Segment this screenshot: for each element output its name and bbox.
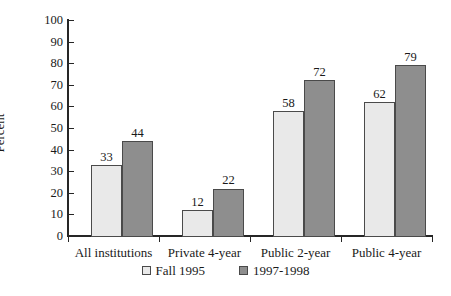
bar-private-4-year-1997-1998 — [213, 189, 244, 238]
legend-item-1997-1998: 1997-1998 — [239, 264, 309, 277]
y-axis-tick-label: 40 — [23, 144, 63, 156]
y-axis-tick-label: 70 — [23, 79, 63, 91]
y-axis-tick — [69, 236, 74, 237]
bar-value-label: 22 — [222, 174, 235, 187]
y-axis-tick-label: 20 — [23, 187, 63, 199]
bar-value-label: 79 — [404, 51, 417, 64]
bar-value-label: 12 — [191, 196, 204, 209]
y-axis-tick — [69, 63, 74, 64]
y-axis-tick — [69, 106, 74, 107]
legend-swatch-icon — [239, 266, 248, 275]
bar-value-label: 72 — [313, 66, 326, 79]
x-axis-tick — [159, 237, 160, 242]
y-axis-tick-label: 90 — [23, 36, 63, 48]
bar-all-institutions-1997-1998 — [122, 141, 153, 237]
y-axis-tick-label: 10 — [23, 208, 63, 220]
legend-item-fall-1995: Fall 1995 — [142, 264, 205, 277]
x-axis-tick — [432, 237, 433, 242]
bar-public-4-year-1997-1998 — [395, 65, 426, 237]
y-axis-tick — [69, 128, 74, 129]
bar-all-institutions-fall-1995 — [91, 165, 122, 237]
legend-label: 1997-1998 — [253, 264, 309, 277]
y-axis-tick — [69, 150, 74, 151]
x-axis-category-label: All institutions — [75, 245, 153, 260]
legend-label: Fall 1995 — [156, 264, 205, 277]
y-axis-tick-label: 60 — [23, 100, 63, 112]
y-axis-tick — [69, 193, 74, 194]
y-axis-tick — [69, 171, 74, 172]
bar-value-label: 62 — [373, 88, 386, 101]
y-axis-tick-label: 30 — [23, 165, 63, 177]
y-axis-tick-label: 80 — [23, 57, 63, 69]
y-axis-tick-label: 0 — [23, 230, 63, 242]
y-axis-tick — [69, 20, 74, 21]
y-axis-tick — [69, 214, 74, 215]
x-axis-tick — [341, 237, 342, 242]
bar-public-2-year-1997-1998 — [304, 80, 335, 237]
bar-chart: Percent 0 10 20 30 40 50 60 70 80 90 100… — [0, 0, 451, 296]
legend-swatch-icon — [142, 266, 151, 275]
x-axis-tick — [250, 237, 251, 242]
x-axis-category-label: Private 4-year — [168, 245, 241, 260]
x-axis-category-label: Public 4-year — [352, 245, 422, 260]
bar-private-4-year-fall-1995 — [182, 210, 213, 237]
bar-public-4-year-fall-1995 — [364, 102, 395, 237]
x-axis-tick — [68, 237, 69, 242]
bar-public-2-year-fall-1995 — [273, 111, 304, 237]
y-axis-tick-label: 100 — [23, 14, 63, 26]
chart-legend: Fall 1995 1997-1998 — [0, 264, 451, 277]
y-axis-tick-label: 50 — [23, 122, 63, 134]
bar-value-label: 33 — [100, 151, 113, 164]
bar-value-label: 44 — [131, 127, 144, 140]
y-axis-tick — [69, 85, 74, 86]
bar-value-label: 58 — [282, 97, 295, 110]
x-axis-category-label: Public 2-year — [261, 245, 331, 260]
y-axis-tick — [69, 42, 74, 43]
y-axis-title: Percent — [0, 93, 9, 173]
